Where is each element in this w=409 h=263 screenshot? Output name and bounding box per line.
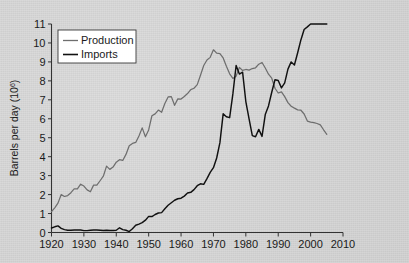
y-axis-ticks: 01234567891011 bbox=[33, 18, 51, 239]
y-tick-label: 8 bbox=[39, 75, 45, 87]
y-tick-label: 10 bbox=[33, 37, 45, 49]
legend-label-imports: Imports bbox=[81, 48, 118, 60]
chart-figure: 01234567891011 1920193019401950196019701… bbox=[0, 0, 409, 263]
x-tick-label: 1950 bbox=[136, 238, 160, 250]
x-tick-label: 1970 bbox=[201, 238, 225, 250]
y-axis-title: Barrels per day (106) bbox=[8, 80, 20, 177]
y-tick-label: 4 bbox=[39, 151, 45, 163]
x-tick-label: 1960 bbox=[169, 238, 193, 250]
legend-label-production: Production bbox=[81, 34, 134, 46]
x-tick-label: 1980 bbox=[234, 238, 258, 250]
y-axis-title-text: Barrels per day (10 bbox=[8, 87, 20, 176]
y-tick-label: 1 bbox=[39, 208, 45, 220]
y-tick-label: 6 bbox=[39, 113, 45, 125]
y-tick-label: 3 bbox=[39, 170, 45, 182]
y-tick-label: 2 bbox=[39, 189, 45, 201]
x-tick-label: 1930 bbox=[72, 238, 96, 250]
x-tick-label: 1940 bbox=[104, 238, 128, 250]
y-tick-label: 11 bbox=[34, 18, 45, 30]
chart-legend: Production Imports bbox=[58, 30, 136, 63]
svg-text:Barrels per day (106): Barrels per day (106) bbox=[8, 80, 20, 177]
y-tick-label: 9 bbox=[39, 56, 45, 68]
x-tick-label: 1920 bbox=[39, 238, 63, 250]
oil-production-imports-line-chart: 01234567891011 1920193019401950196019701… bbox=[0, 0, 409, 263]
y-tick-label: 7 bbox=[39, 94, 45, 106]
y-tick-label: 5 bbox=[39, 132, 45, 144]
x-tick-label: 1990 bbox=[266, 238, 290, 250]
x-axis-ticks: 1920193019401950196019701980199020002010 bbox=[39, 233, 355, 250]
x-tick-label: 2000 bbox=[298, 238, 322, 250]
x-tick-label: 2010 bbox=[331, 238, 355, 250]
series-line-production bbox=[52, 50, 327, 212]
